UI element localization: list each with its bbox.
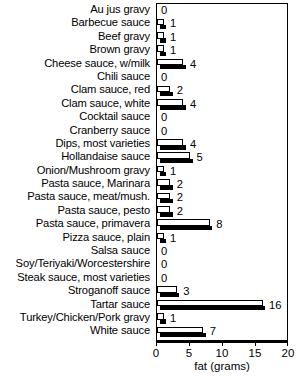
category-label: Barbecue sauce (0, 16, 153, 29)
bar-value-label: 2 (177, 84, 183, 97)
bar (157, 300, 263, 311)
bar-shadow (160, 105, 186, 109)
x-axis-tick-label: 15 (249, 347, 262, 359)
bar-shadow (160, 92, 173, 96)
bar-row: 0 (157, 125, 287, 138)
bar-value-label: 8 (216, 218, 222, 231)
bar-value-label: 1 (170, 31, 176, 44)
category-label: Soy/Teriyaki/Worcestershire (0, 257, 153, 270)
bar-value-label: 1 (170, 312, 176, 325)
bar-row: 1 (157, 165, 287, 178)
bar-row: 0 (157, 111, 287, 124)
bar (157, 99, 183, 110)
bar-value-label: 1 (170, 165, 176, 178)
bar (157, 286, 177, 297)
bar-value-label: 7 (210, 325, 216, 338)
bar-row: 2 (157, 205, 287, 218)
bar-row: 3 (157, 285, 287, 298)
category-label: Pizza sauce, plain (0, 231, 153, 244)
bar-shadow (160, 38, 167, 42)
category-label: Brown gravy (0, 43, 153, 56)
bar-value-label: 0 (161, 71, 167, 84)
bar-value-label: 16 (269, 299, 281, 312)
x-axis-tick-label: 20 (282, 347, 295, 359)
bar-face (157, 139, 183, 146)
category-label: Turkey/Chicken/Pork gravy (0, 311, 153, 324)
bar (157, 327, 203, 338)
bar-row: 0 (157, 71, 287, 84)
category-label: Cranberry sauce (0, 124, 153, 137)
bar-face (157, 233, 164, 240)
category-label: Pasta sauce, Marinara (0, 177, 153, 190)
bar-shadow (160, 333, 206, 337)
bar-row: 1 (157, 44, 287, 57)
bar-row: 5 (157, 151, 287, 164)
x-axis-tick (255, 341, 256, 346)
bar (157, 152, 190, 163)
x-axis-title: fat (grams) (156, 360, 288, 372)
bar (157, 86, 170, 97)
bar-value-label: 0 (161, 258, 167, 271)
bar (157, 313, 164, 324)
category-label: Cheese sauce, w/milk (0, 57, 153, 70)
category-label: Pasta sauce, meat/mush. (0, 190, 153, 203)
bar-shadow (160, 239, 167, 243)
category-label: Pasta sauce, primavera (0, 217, 153, 230)
bar-row: 8 (157, 218, 287, 231)
bar-face (157, 179, 170, 186)
bar (157, 193, 170, 204)
bar-row: 0 (157, 4, 287, 17)
bar-shadow (160, 185, 173, 189)
category-label: Stroganoff sauce (0, 284, 153, 297)
bar-face (157, 193, 170, 200)
bar-row: 7 (157, 325, 287, 338)
bar (157, 139, 183, 150)
category-label: Clam sauce, white (0, 97, 153, 110)
bar-row: 2 (157, 178, 287, 191)
bar-row: 4 (157, 138, 287, 151)
bar-value-label: 3 (183, 285, 189, 298)
bar-row: 4 (157, 58, 287, 71)
bar-row: 1 (157, 232, 287, 245)
category-label: Tartar sauce (0, 298, 153, 311)
bar-shadow (160, 319, 167, 323)
category-label: Beef gravy (0, 30, 153, 43)
bar (157, 179, 170, 190)
bar-row: 1 (157, 17, 287, 30)
category-label: Hollandaise sauce (0, 150, 153, 163)
bar-value-label: 4 (190, 138, 196, 151)
x-axis-tick-label: 0 (153, 347, 159, 359)
bar-value-label: 2 (177, 205, 183, 218)
bar (157, 59, 183, 70)
bar-shadow (160, 25, 167, 29)
bar-row: 1 (157, 312, 287, 325)
bar-face (157, 19, 164, 26)
bar-face (157, 286, 177, 293)
category-label: Steak sauce, most varieties (0, 271, 153, 284)
bar-row: 0 (157, 245, 287, 258)
bar-value-label: 4 (190, 98, 196, 111)
bar (157, 166, 164, 177)
bar-shadow (160, 65, 186, 69)
bar-value-label: 2 (177, 191, 183, 204)
category-label: Cocktail sauce (0, 110, 153, 123)
x-axis: 05101520 (156, 341, 288, 342)
category-label: Au jus gravy (0, 3, 153, 16)
bar-shadow (160, 226, 213, 230)
bar-value-label: 0 (161, 111, 167, 124)
bar-face (157, 219, 210, 226)
bar-value-label: 0 (161, 4, 167, 17)
bar (157, 219, 210, 230)
bar (157, 206, 170, 217)
bar-value-label: 0 (161, 272, 167, 285)
bar-row: 0 (157, 258, 287, 271)
bar-face (157, 59, 183, 66)
category-label: Onion/Mushroom gravy (0, 164, 153, 177)
bar-shadow (160, 306, 266, 310)
bar-row: 4 (157, 98, 287, 111)
category-label: Dips, most varieties (0, 137, 153, 150)
bar-value-label: 4 (190, 58, 196, 71)
x-axis-tick (287, 341, 288, 346)
bar-row: 1 (157, 31, 287, 44)
bar-row: 0 (157, 272, 287, 285)
